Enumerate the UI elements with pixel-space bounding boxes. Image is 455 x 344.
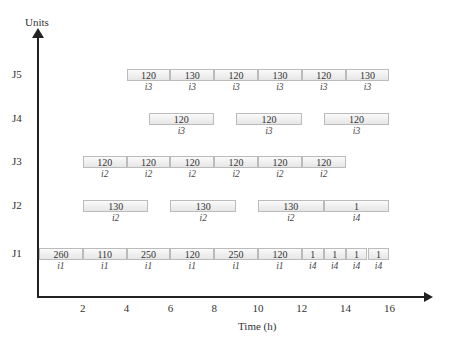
y-category-label: J5: [12, 68, 22, 80]
task-bar: 120: [302, 69, 346, 81]
task-label: i2: [127, 169, 171, 179]
task-label: i3: [346, 82, 390, 92]
task-label: i2: [258, 169, 302, 179]
task-label: i3: [302, 82, 346, 92]
x-axis: [37, 296, 425, 298]
task-bar: 260: [39, 248, 83, 260]
task-bar: 1: [324, 200, 390, 212]
task-label: i3: [214, 82, 258, 92]
y-axis-label: Units: [25, 16, 49, 28]
task-label: i2: [170, 169, 214, 179]
task-bar: 120: [149, 113, 215, 125]
y-category-label: J4: [12, 112, 22, 124]
task-label: i3: [170, 82, 214, 92]
x-axis-arrow-icon: [424, 292, 433, 302]
task-bar: 120: [170, 156, 214, 168]
x-tick-label: 6: [168, 302, 174, 314]
task-label: i3: [149, 126, 215, 136]
task-bar: 120: [83, 156, 127, 168]
task-bar: 120: [258, 156, 302, 168]
x-tick-label: 16: [384, 302, 395, 314]
task-bar: 130: [258, 200, 324, 212]
task-label: i4: [346, 261, 368, 271]
task-label: i3: [324, 126, 390, 136]
task-label: i1: [170, 261, 214, 271]
task-bar: 250: [214, 248, 258, 260]
x-tick-label: 10: [253, 302, 264, 314]
x-tick-label: 2: [80, 302, 86, 314]
task-label: i4: [324, 213, 390, 223]
task-label: i1: [214, 261, 258, 271]
task-label: i4: [368, 261, 390, 271]
task-bar: 130: [170, 69, 214, 81]
task-label: i3: [258, 82, 302, 92]
x-tick-label: 14: [340, 302, 351, 314]
task-label: i2: [83, 213, 149, 223]
y-axis-arrow-icon: [32, 28, 44, 38]
task-bar: 1: [324, 248, 346, 260]
task-bar: 120: [302, 156, 346, 168]
task-label: i2: [83, 169, 127, 179]
task-bar: 120: [236, 113, 302, 125]
task-label: i3: [127, 82, 171, 92]
task-bar: 120: [127, 69, 171, 81]
x-tick-label: 8: [211, 302, 217, 314]
task-label: i1: [127, 261, 171, 271]
task-label: i4: [324, 261, 346, 271]
task-bar: 250: [127, 248, 171, 260]
task-label: i2: [214, 169, 258, 179]
y-category-label: J2: [12, 199, 22, 211]
task-bar: 1: [346, 248, 368, 260]
task-label: i1: [39, 261, 83, 271]
task-bar: 120: [170, 248, 214, 260]
task-bar: 130: [346, 69, 390, 81]
task-bar: 1: [302, 248, 324, 260]
task-bar: 130: [170, 200, 236, 212]
task-label: i1: [83, 261, 127, 271]
task-label: i2: [170, 213, 236, 223]
y-category-label: J1: [12, 247, 22, 259]
task-bar: 1: [368, 248, 390, 260]
task-bar: 120: [324, 113, 390, 125]
task-bar: 120: [214, 156, 258, 168]
task-bar: 130: [258, 69, 302, 81]
x-tick-label: 12: [296, 302, 307, 314]
task-label: i2: [258, 213, 324, 223]
task-label: i2: [302, 169, 346, 179]
task-bar: 120: [258, 248, 302, 260]
y-category-label: J3: [12, 155, 22, 167]
task-bar: 130: [83, 200, 149, 212]
task-bar: 110: [83, 248, 127, 260]
task-bar: 120: [214, 69, 258, 81]
task-label: i1: [258, 261, 302, 271]
x-tick-label: 4: [124, 302, 130, 314]
task-bar: 120: [127, 156, 171, 168]
task-label: i4: [302, 261, 324, 271]
x-axis-label: Time (h): [238, 320, 276, 332]
task-label: i3: [236, 126, 302, 136]
